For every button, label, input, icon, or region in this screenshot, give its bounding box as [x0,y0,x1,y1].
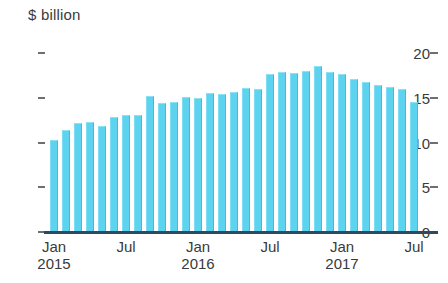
x-axis-tick-group: Jan2015 [37,238,70,273]
bar [182,97,190,232]
bar [74,123,82,232]
x-axis-tick-month: Jul [260,238,279,255]
y-axis-tick-mark-right [430,186,438,188]
y-axis-tick-mark [38,186,45,188]
bar [242,88,250,232]
x-axis-tick-year: 2017 [325,255,358,273]
x-axis-tick-group: Jul [260,238,279,255]
x-axis-tick-year: 2016 [181,255,214,273]
y-axis-tick-mark [38,142,45,144]
bar [278,72,286,232]
bars-layer [48,53,420,232]
bar [206,93,214,232]
x-axis-tick-group: Jan2017 [325,238,358,273]
bar [338,74,346,232]
x-axis-tick-group: Jan2016 [181,238,214,273]
bar [146,96,154,232]
y-axis-tick-mark [38,97,45,99]
bar [290,73,298,232]
x-axis-baseline [44,231,438,234]
x-axis-tick-month: Jul [116,238,135,255]
bar [218,94,226,232]
y-axis-tick-mark-right [430,52,438,54]
x-axis-tick-month: Jan [37,238,70,255]
x-axis-tick-group: Jul [116,238,135,255]
bar [314,66,322,232]
bar [326,72,334,232]
bar [98,126,106,232]
bar [194,98,202,232]
x-axis-tick-month: Jan [181,238,214,255]
bar [302,71,310,232]
bar [266,74,274,232]
bar [350,79,358,232]
chart-unit-title: $ billion [28,6,81,23]
bar [362,82,370,232]
x-axis-tick-group: Jul [404,238,423,255]
bar [254,89,262,232]
x-axis-tick-month: Jan [325,238,358,255]
bar [386,87,394,232]
bar [374,85,382,232]
bar [230,92,238,233]
bar [158,103,166,232]
x-axis-tick-year: 2015 [37,255,70,273]
y-axis-tick-mark-right [430,142,438,144]
bar [122,115,130,232]
plot-area [48,53,420,232]
bar [410,102,418,232]
y-axis-tick-mark [38,52,45,54]
bar [86,122,94,232]
bar [50,140,58,232]
bar [398,89,406,232]
bar [134,115,142,232]
y-axis-tick-label: 5 [422,180,430,195]
x-axis-tick-month: Jul [404,238,423,255]
bar [110,117,118,232]
bar-chart: $ billion 05101520 Jan2015JulJan2016JulJ… [0,0,448,283]
y-axis-tick-mark-right [430,97,438,99]
bar [170,102,178,232]
bar [62,130,70,232]
